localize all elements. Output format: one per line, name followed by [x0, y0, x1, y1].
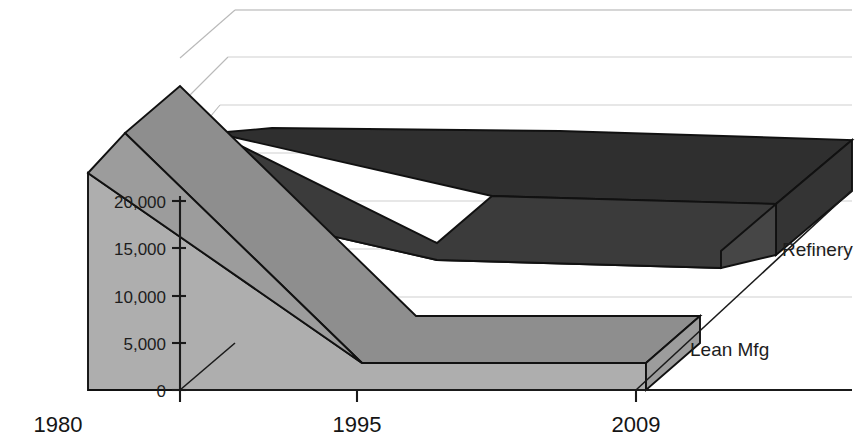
- x-axis-label-1995: 1995: [333, 412, 382, 437]
- area-chart-3d: 20,000 15,000 10,000 5,000 0 1980 1995 2…: [0, 0, 858, 440]
- y-axis-label-5000: 5,000: [123, 335, 166, 354]
- y-axis-label-10000: 10,000: [114, 288, 166, 307]
- wall-riser-top: [180, 10, 235, 58]
- x-tick-marks: [180, 390, 636, 402]
- x-axis-label-2009: 2009: [612, 412, 661, 437]
- y-axis-label-0: 0: [157, 382, 166, 401]
- series-label-lean-mfg: Lean Mfg: [690, 339, 769, 360]
- x-axis-label-1980: 1980: [34, 412, 83, 437]
- x-axis-labels: 1980 1995 2009: [34, 412, 661, 437]
- y-axis-label-20000: 20,000: [114, 193, 166, 212]
- chart-container: 20,000 15,000 10,000 5,000 0 1980 1995 2…: [0, 0, 858, 440]
- series-label-refinery: Refinery: [782, 239, 853, 260]
- y-axis-label-15000: 15,000: [114, 240, 166, 259]
